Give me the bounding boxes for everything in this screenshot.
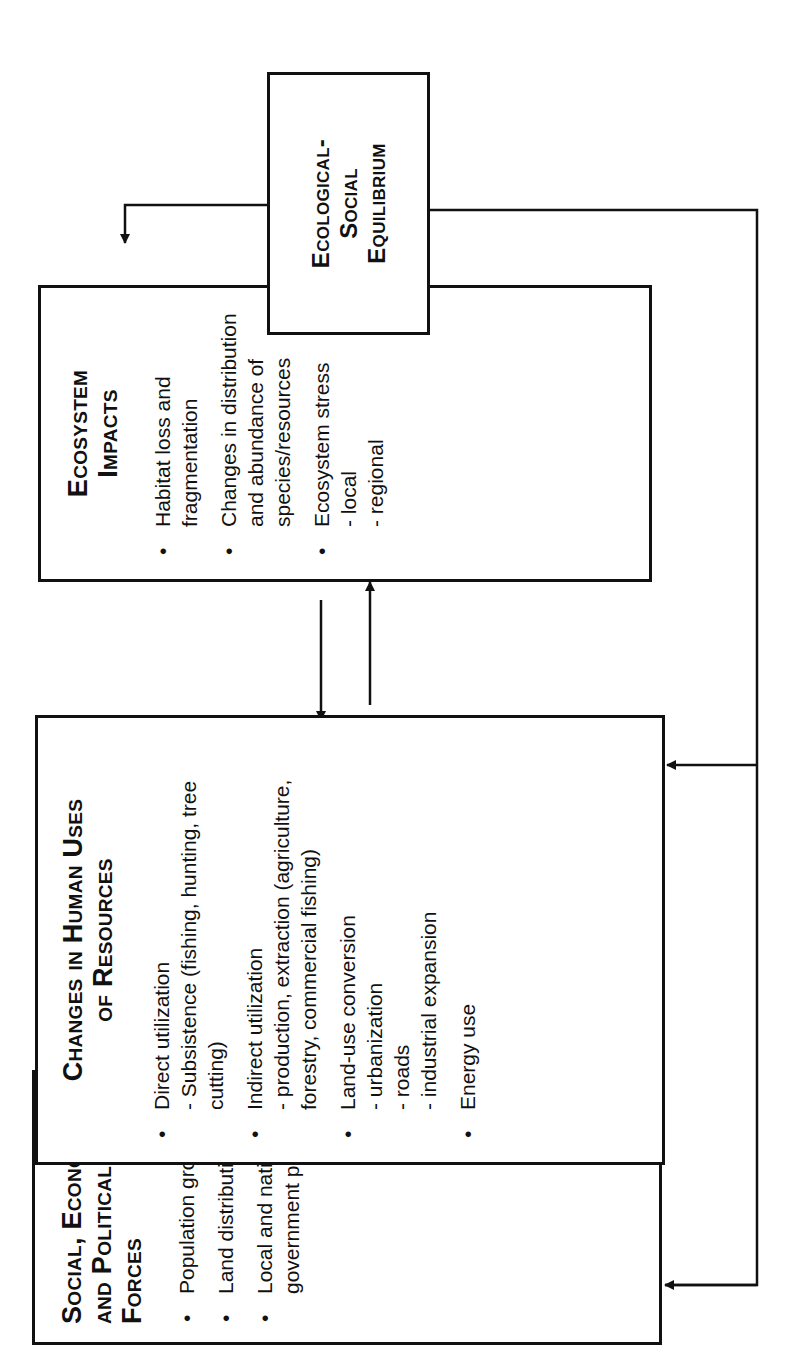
list-item: Indirect utilization- production, extrac… bbox=[241, 736, 322, 1144]
list-item: Changes in distribution and abundance of… bbox=[215, 306, 296, 561]
box-changes-human-uses: Changes in Human Uses of Resources Direc… bbox=[35, 715, 665, 1165]
equilibrium-title: Ecological-Social Equilibrium bbox=[307, 115, 391, 292]
ecosystem-title: Ecosystem Impacts bbox=[63, 306, 123, 561]
list-item: Land-use conversion- urbanization- roads… bbox=[334, 736, 442, 1144]
diagram-stage: Social, Economic, and Political Forces P… bbox=[0, 0, 789, 1365]
box-ecological-social-equilibrium: Ecological-Social Equilibrium bbox=[267, 72, 430, 335]
changes-list: Direct utilization- Subsistence (fishing… bbox=[148, 736, 481, 1144]
list-item: Direct utilization- Subsistence (fishing… bbox=[148, 736, 229, 1144]
changes-title: Changes in Human Uses of Resources bbox=[58, 736, 118, 1144]
arrow-equilibrium-feedback bbox=[125, 205, 267, 243]
list-item: Energy use bbox=[454, 736, 481, 1144]
list-item: Habitat loss and fragmentation bbox=[149, 306, 203, 561]
ecosystem-list: Habitat loss and fragmentation Changes i… bbox=[149, 306, 389, 561]
list-item: Ecosystem stress- local- regional bbox=[308, 306, 389, 561]
